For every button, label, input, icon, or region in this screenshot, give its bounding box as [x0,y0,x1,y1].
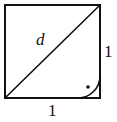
right-angle-dot-icon [86,85,90,89]
bottom-side-label: 1 [48,102,57,119]
right-side-label: 1 [104,43,113,60]
geometry-figure: d 1 1 [0,0,117,122]
diagonal-line [5,5,100,98]
diagonal-label: d [36,31,45,48]
figure-canvas [0,0,117,122]
